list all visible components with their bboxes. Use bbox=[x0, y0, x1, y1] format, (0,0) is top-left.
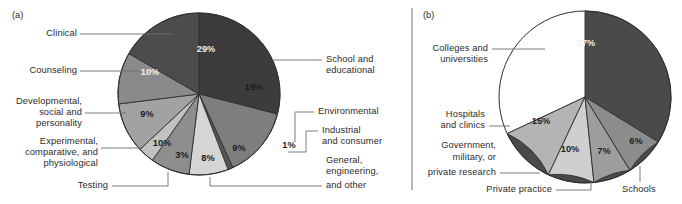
label-experimental-line1: Experimental, bbox=[0, 136, 98, 148]
label-colleges-line2: universities bbox=[410, 54, 488, 66]
label-developmental-line2: social and bbox=[0, 107, 82, 119]
label-government-line2: military, or bbox=[406, 152, 496, 164]
label-testing: Testing bbox=[50, 180, 108, 192]
label-environmental: Environmental bbox=[318, 106, 406, 118]
pct-a-environmental: 1% bbox=[282, 140, 295, 150]
pct-a-counseling: 10% bbox=[141, 67, 159, 77]
label-government-line1: Government, bbox=[406, 140, 496, 152]
label-industrial-line1: Industrial bbox=[322, 125, 408, 137]
label-developmental-line3: personality bbox=[0, 118, 82, 130]
label-private-practice: Private practice bbox=[470, 184, 552, 196]
pct-a-clinical: 29% bbox=[197, 44, 215, 54]
pie-a-slices bbox=[118, 13, 280, 175]
label-developmental-line1: Developmental, bbox=[0, 96, 82, 108]
label-clinical: Clinical bbox=[0, 28, 77, 40]
pct-a-developmental: 9% bbox=[140, 109, 153, 119]
pct-b-schools: 6% bbox=[629, 136, 642, 146]
label-hospitals-line1: Hospitals bbox=[410, 109, 485, 121]
pct-a-experimental: 10% bbox=[153, 138, 171, 148]
label-school-line2: educational bbox=[326, 65, 406, 77]
label-counseling: Counseling bbox=[0, 65, 77, 77]
leader-environmental bbox=[295, 112, 314, 142]
label-experimental-line3: physiological bbox=[0, 158, 98, 170]
panel-tag-b: (b) bbox=[423, 10, 434, 20]
pie-b-slices bbox=[499, 11, 671, 183]
pct-b-hospitals: 15% bbox=[532, 116, 550, 126]
label-industrial-line2: and consumer bbox=[322, 136, 408, 148]
pct-b-government: 10% bbox=[561, 144, 579, 154]
label-hospitals-line2: and clinics bbox=[410, 120, 485, 132]
pct-a-testing: 3% bbox=[175, 150, 188, 160]
pct-b-private: 7% bbox=[597, 146, 610, 156]
two-pie-chart-figure: 29% 19% 9% 8% 3% 10% 9% 10% 1% bbox=[0, 0, 682, 204]
label-colleges-line1: Colleges and bbox=[410, 43, 488, 55]
pct-a-general: 8% bbox=[201, 153, 214, 163]
pct-a-school: 19% bbox=[245, 82, 263, 92]
leader-general bbox=[210, 177, 322, 186]
leader-testing bbox=[112, 172, 168, 186]
pct-b-colleges: 57% bbox=[577, 38, 595, 48]
panel-tag-a: (a) bbox=[12, 10, 23, 20]
pct-a-industrial: 9% bbox=[232, 143, 245, 153]
label-experimental-line2: comparative, and bbox=[0, 147, 98, 159]
label-schools: Schools bbox=[622, 184, 680, 196]
label-general-line3: and other bbox=[326, 180, 412, 192]
label-school-line1: School and bbox=[326, 54, 406, 66]
label-general-line2: engineering, bbox=[326, 166, 412, 178]
label-general-line1: General, bbox=[326, 155, 412, 167]
label-government-line3: private research bbox=[406, 167, 496, 179]
